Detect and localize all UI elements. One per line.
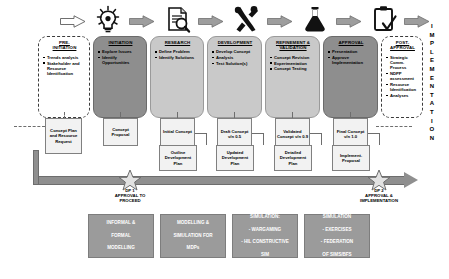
elbow-v-detailed bbox=[321, 133, 322, 145]
arrow-icon-2 bbox=[198, 14, 224, 26]
arrow-icon-4 bbox=[336, 14, 362, 26]
document-search-icon bbox=[162, 4, 192, 34]
deliverable-concept-proposal[interactable]: Concept Proposal bbox=[103, 118, 138, 146]
flask-icon bbox=[300, 4, 330, 34]
phase-bullet: Trends analysis bbox=[43, 55, 86, 60]
deliverable-updated-development-plan[interactable]: Updated Development Plan bbox=[216, 145, 254, 171]
phase-title: POST- APPROVAL bbox=[386, 40, 419, 51]
phase-bullet: Stakeholder and Resource Identification bbox=[43, 61, 86, 77]
vertical-label-letter: E bbox=[425, 74, 439, 83]
gate-label-dp2: APPROVAL & IMPLEMENTATION bbox=[350, 193, 408, 203]
phase-title: RESEARCH bbox=[155, 40, 200, 45]
vertical-label-letter: I bbox=[425, 117, 439, 126]
phase-bullet-list: Trends analysis Stakeholder and Resource… bbox=[43, 55, 86, 76]
phase-bullet: Presentation bbox=[328, 49, 374, 54]
process-flow-diagram: PRE- INITIATION Trends analysis Stakehol… bbox=[0, 0, 449, 279]
vertical-label-letter: L bbox=[425, 48, 439, 57]
phase-research[interactable]: RESEARCH Define Problem Identify Solutio… bbox=[150, 36, 204, 118]
deliverable-initial-concept[interactable]: Initial Concept bbox=[160, 118, 195, 146]
phase-title: REFINEMENT & VALIDATION bbox=[270, 40, 316, 51]
phase-bullet-list: Define Problem Identify Solutions bbox=[155, 49, 200, 60]
phase-bullet: Develop Concept bbox=[212, 49, 258, 54]
phase-title: INITIATION bbox=[98, 40, 143, 45]
deliverable-implement-proposal[interactable]: Implement. Proposal bbox=[332, 145, 370, 171]
phase-bullet: Concept Testing bbox=[270, 66, 316, 71]
elbow-v-outline bbox=[206, 133, 207, 145]
phase-bullet-list: Concept Revision Experimentation Concept… bbox=[270, 55, 316, 72]
phase-bullet-list: Explore Issues Identify Opportunities bbox=[98, 49, 143, 65]
arrow-icon-3 bbox=[267, 14, 293, 26]
method-box-simulation-wargaming[interactable]: SIMULATION: - WARGAMING - HIL CONSTRUCTI… bbox=[232, 214, 298, 258]
phase-refinement-validation[interactable]: REFINEMENT & VALIDATION Concept Revision… bbox=[265, 36, 320, 118]
arrow-icon-0 bbox=[60, 14, 86, 26]
phase-bullet: Identify Opportunities bbox=[98, 55, 143, 65]
phase-approval[interactable]: APPROVAL Presentation Approve Implementa… bbox=[323, 36, 378, 118]
phase-pre-initiation[interactable]: PRE- INITIATION Trends analysis Stakehol… bbox=[38, 36, 90, 118]
phase-bullet-list: Strategic Comm. Process NDPP assessment … bbox=[386, 55, 419, 98]
vertical-label-letter: P bbox=[425, 39, 439, 48]
phase-bullet: Approve Implementation bbox=[328, 55, 374, 65]
phase-development[interactable]: DEVELOPMENT Develop Concept Analysis Tes… bbox=[207, 36, 262, 118]
phase-title: APPROVAL bbox=[328, 40, 374, 45]
implementation-vertical-label: IMPLEMENTATION bbox=[425, 22, 439, 142]
phase-post-approval[interactable]: POST- APPROVAL Strategic Comm. Process N… bbox=[381, 36, 423, 118]
phase-title-line2: VALIDATION bbox=[279, 45, 306, 50]
phase-title-line1: PRE- bbox=[59, 40, 70, 45]
phase-bullet-list: Develop Concept Analysis Test Solution(s… bbox=[212, 49, 258, 66]
phase-bullet: Test Solution(s) bbox=[212, 61, 258, 66]
phase-title-line2: APPROVAL bbox=[390, 45, 415, 50]
phase-initiation[interactable]: INITIATION Explore Issues Identify Oppor… bbox=[93, 36, 147, 118]
timeline-bar bbox=[38, 176, 406, 185]
gate-label-dp1: APPROVAL TO PROCEED bbox=[102, 193, 158, 203]
phase-bullet-list: Presentation Approve Implementation bbox=[328, 49, 374, 65]
arrow-icon-1 bbox=[129, 14, 155, 26]
timeline-bar-arrowhead bbox=[404, 172, 418, 188]
method-box-simulation-exercises[interactable]: SIMULATION - EXERCISES - FEDERATION OF S… bbox=[304, 214, 370, 258]
vertical-label-letter: I bbox=[425, 22, 439, 31]
vertical-label-letter: A bbox=[425, 99, 439, 108]
phase-title: PRE- INITIATION bbox=[43, 40, 86, 51]
method-box-informal-formal-modelling[interactable]: INFORMAL & FORMAL MODELLING bbox=[88, 214, 154, 258]
phase-title: DEVELOPMENT bbox=[212, 40, 258, 45]
phase-bullet: Explore Issues bbox=[98, 49, 143, 54]
vertical-label-letter: T bbox=[425, 108, 439, 117]
deliverable-concept-plan[interactable]: Concept Plan and Resource Request bbox=[45, 118, 82, 154]
phase-bullet: NDPP assessment bbox=[386, 71, 419, 81]
elbow-v-updated bbox=[263, 133, 264, 145]
connector-dashed-left bbox=[14, 126, 45, 127]
phase-bullet: Analysis bbox=[212, 55, 258, 60]
vertical-label-letter: O bbox=[425, 125, 439, 134]
elbow-v-implement bbox=[379, 133, 380, 145]
vertical-label-letter: E bbox=[425, 56, 439, 65]
phase-title-line2: INITIATION bbox=[53, 45, 77, 50]
phase-bullet: Identify Solutions bbox=[155, 55, 200, 60]
vertical-label-letter: N bbox=[425, 82, 439, 91]
phase-bullet: Strategic Comm. Process bbox=[386, 55, 419, 71]
deliverable-outline-development-plan[interactable]: Outline Development Plan bbox=[159, 145, 197, 171]
phase-bullet: Experimentation bbox=[270, 61, 316, 66]
phase-bullet: Analyses bbox=[386, 93, 419, 98]
vertical-label-letter: N bbox=[425, 134, 439, 143]
phase-bullet: Concept Revision bbox=[270, 55, 316, 60]
lightbulb-icon bbox=[93, 4, 123, 34]
method-box-modelling-simulation-mdps[interactable]: MODELLING & SIMULATION FOR MDPs bbox=[160, 214, 226, 258]
vertical-label-letter: T bbox=[425, 91, 439, 100]
method-box-text: SIMULATION: - WARGAMING - HIL CONSTRUCTI… bbox=[237, 214, 293, 257]
icon-arrow-strip bbox=[60, 2, 390, 36]
method-box-text: INFORMAL & FORMAL MODELLING bbox=[103, 220, 140, 251]
tools-icon bbox=[231, 4, 261, 34]
deliverable-detailed-development-plan[interactable]: Detailed Development Plan bbox=[274, 145, 312, 171]
clipboard-check-icon bbox=[369, 4, 399, 34]
vertical-label-letter: M bbox=[425, 65, 439, 74]
phase-bullet: Resource Identification bbox=[386, 82, 419, 92]
phase-title-line1: POST- bbox=[396, 40, 410, 45]
method-box-text: SIMULATION - EXERCISES - FEDERATION OF S… bbox=[317, 214, 357, 257]
vertical-label-letter: M bbox=[425, 31, 439, 40]
phase-title-line1: REFINEMENT & bbox=[276, 40, 310, 45]
method-box-text: MODELLING & SIMULATION FOR MDPs bbox=[169, 220, 216, 251]
phase-bullet: Define Problem bbox=[155, 49, 200, 54]
connector-dashed-right bbox=[376, 126, 412, 127]
